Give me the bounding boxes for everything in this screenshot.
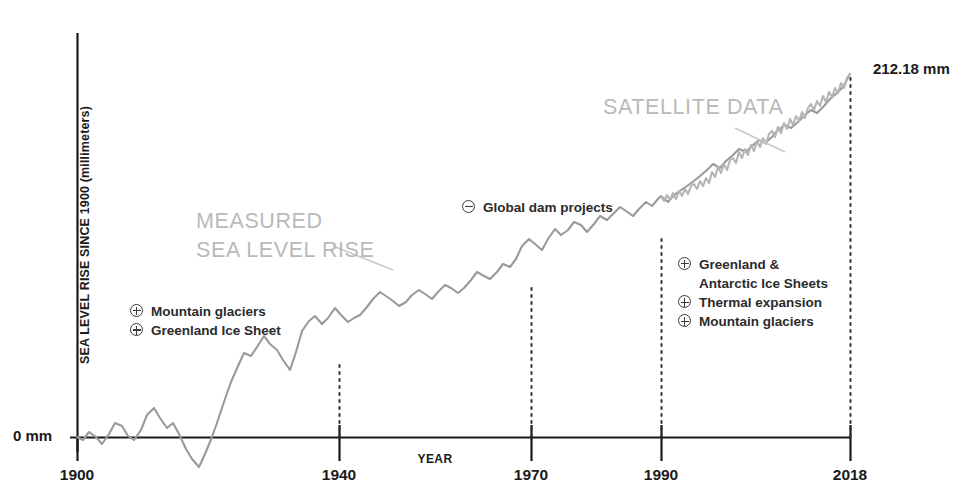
minus-circle-icon bbox=[462, 200, 477, 215]
annotation-item-continuation: Antarctic Ice Sheets bbox=[678, 274, 828, 293]
end-value-label: 212.18 mm bbox=[873, 60, 950, 77]
satellite-data-callout: SATELLITE DATA bbox=[603, 93, 783, 122]
sea-level-rise-chart: SEA LEVEL RISE SINCE 1900 (millimeters) … bbox=[0, 0, 962, 502]
measured-sea-level-callout: MEASURED SEA LEVEL RISE bbox=[196, 207, 375, 264]
annotation-item: Mountain glaciers bbox=[130, 302, 281, 321]
annotation-group-dams: Global dam projects bbox=[462, 198, 613, 217]
annotation-label: Greenland & bbox=[699, 255, 779, 274]
annotation-label: Antarctic Ice Sheets bbox=[678, 274, 828, 293]
x-tick-label-1900: 1900 bbox=[60, 466, 94, 484]
annotation-item: Thermal expansion bbox=[678, 293, 828, 312]
annotation-label: Global dam projects bbox=[483, 198, 613, 217]
plus-circle-icon bbox=[130, 323, 145, 338]
annotation-item: Global dam projects bbox=[462, 198, 613, 217]
annotation-label: Mountain glaciers bbox=[151, 302, 266, 321]
plus-circle-icon bbox=[130, 304, 145, 319]
plus-circle-icon bbox=[678, 314, 693, 329]
x-tick-label-2018: 2018 bbox=[833, 466, 867, 484]
annotation-item: Greenland Ice Sheet bbox=[130, 321, 281, 340]
annotation-item: Mountain glaciers bbox=[678, 312, 828, 331]
annotation-item: Greenland & bbox=[678, 255, 828, 274]
annotation-label: Mountain glaciers bbox=[699, 312, 814, 331]
y-axis-title: SEA LEVEL RISE SINCE 1900 (millimeters) bbox=[78, 35, 92, 435]
x-axis-title: YEAR bbox=[418, 452, 453, 466]
x-tick-label-1940: 1940 bbox=[322, 466, 356, 484]
chart-plot-area bbox=[0, 0, 962, 502]
x-tick-label-1970: 1970 bbox=[514, 466, 548, 484]
x-tick-label-1990: 1990 bbox=[644, 466, 678, 484]
annotation-label: Greenland Ice Sheet bbox=[151, 321, 281, 340]
plus-circle-icon bbox=[678, 295, 693, 310]
y-axis-zero-label: 0 mm bbox=[13, 427, 52, 444]
annotation-label: Thermal expansion bbox=[699, 293, 822, 312]
annotation-group-early: Mountain glaciers Greenland Ice Sheet bbox=[130, 302, 281, 340]
plus-circle-icon bbox=[678, 257, 693, 272]
x-axis-ticks bbox=[78, 425, 851, 461]
annotation-group-late: Greenland & Antarctic Ice Sheets Thermal… bbox=[678, 255, 828, 332]
